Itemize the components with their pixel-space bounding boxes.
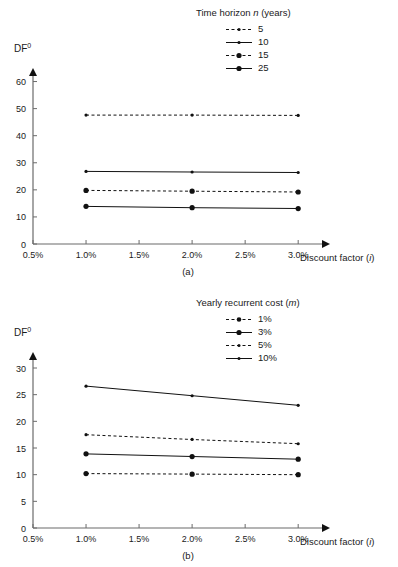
- svg-text:20: 20: [16, 417, 26, 427]
- svg-text:2.0%: 2.0%: [182, 534, 203, 544]
- svg-text:30: 30: [16, 158, 26, 168]
- svg-text:10: 10: [16, 212, 26, 222]
- svg-text:30: 30: [16, 364, 26, 374]
- svg-text:60: 60: [16, 77, 26, 87]
- svg-text:2.5%: 2.5%: [235, 250, 256, 260]
- x-axis-title-a: Discount factor (i): [300, 252, 374, 263]
- svg-text:15: 15: [16, 444, 26, 454]
- svg-text:40: 40: [16, 131, 26, 141]
- figure-caption-a: (a): [158, 266, 218, 277]
- svg-text:5: 5: [21, 497, 26, 507]
- svg-text:0.5%: 0.5%: [23, 534, 44, 544]
- figure-caption-b: (b): [158, 550, 218, 561]
- svg-text:20: 20: [16, 185, 26, 195]
- figure-a: Time horizon n (years) 5 10 15: [0, 0, 398, 283]
- svg-text:1.5%: 1.5%: [129, 534, 150, 544]
- svg-text:25: 25: [16, 390, 26, 400]
- svg-text:0.5%: 0.5%: [23, 250, 44, 260]
- svg-text:1.0%: 1.0%: [76, 250, 97, 260]
- svg-text:0: 0: [21, 240, 26, 250]
- figure-b: Yearly recurrent cost (m) 1% 3% 5%: [0, 284, 398, 567]
- svg-text:2.5%: 2.5%: [235, 534, 256, 544]
- svg-text:50: 50: [16, 104, 26, 114]
- svg-text:1.5%: 1.5%: [129, 250, 150, 260]
- svg-text:0: 0: [21, 524, 26, 534]
- plot-area-b: 0.5%1.0%1.5%2.0%2.5%3.0%051015202530: [0, 284, 398, 567]
- plot-area-a: 0.5%1.0%1.5%2.0%2.5%3.0%0102030405060: [0, 0, 398, 283]
- svg-text:2.0%: 2.0%: [182, 250, 203, 260]
- svg-text:10: 10: [16, 470, 26, 480]
- x-axis-title-b: Discount factor (i): [300, 536, 374, 547]
- svg-text:1.0%: 1.0%: [76, 534, 97, 544]
